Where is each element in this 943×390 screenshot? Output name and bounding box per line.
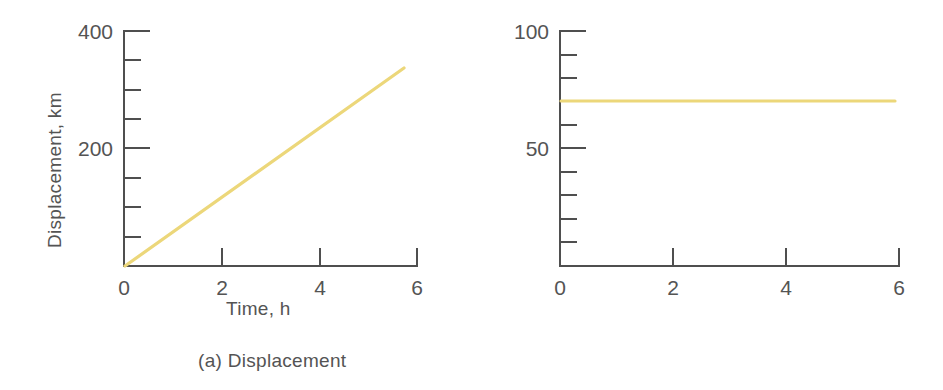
panel-velocity: 100 50 0 2 4 6 Velocity, km/ h Time, h (… bbox=[471, 0, 943, 390]
displacement-data-line bbox=[125, 68, 404, 266]
x-tick-label-0: 0 bbox=[118, 276, 130, 299]
x-axis-title-displacement: Time, h bbox=[226, 298, 291, 320]
x-tick-label-6: 6 bbox=[893, 276, 905, 299]
y-tick-label-50: 50 bbox=[526, 137, 549, 160]
axis-lines bbox=[124, 31, 417, 266]
y-tick-label-200: 200 bbox=[78, 137, 113, 160]
displacement-plot: 400 200 0 2 4 6 bbox=[0, 0, 471, 390]
y-tick-label-400: 400 bbox=[78, 20, 113, 43]
x-tick-label-2: 2 bbox=[216, 276, 228, 299]
panel-displacement: 400 200 0 2 4 6 Displacement, km Time, h… bbox=[0, 0, 471, 390]
velocity-plot: 100 50 0 2 4 6 bbox=[471, 0, 943, 390]
caption-displacement: (a) Displacement bbox=[198, 350, 346, 372]
x-tick-label-2: 2 bbox=[667, 276, 679, 299]
figure-two-panel-plot: 400 200 0 2 4 6 Displacement, km Time, h… bbox=[0, 0, 943, 390]
x-tick-label-6: 6 bbox=[411, 276, 423, 299]
y-tick-label-100: 100 bbox=[514, 20, 549, 43]
y-major-ticks bbox=[560, 31, 586, 148]
x-ticks bbox=[222, 248, 417, 266]
axis-lines bbox=[560, 31, 899, 266]
x-tick-label-0: 0 bbox=[554, 276, 566, 299]
y-axis-title-displacement: Displacement, km bbox=[44, 92, 66, 248]
x-tick-label-4: 4 bbox=[780, 276, 792, 299]
x-tick-label-4: 4 bbox=[314, 276, 326, 299]
x-ticks bbox=[673, 248, 899, 266]
